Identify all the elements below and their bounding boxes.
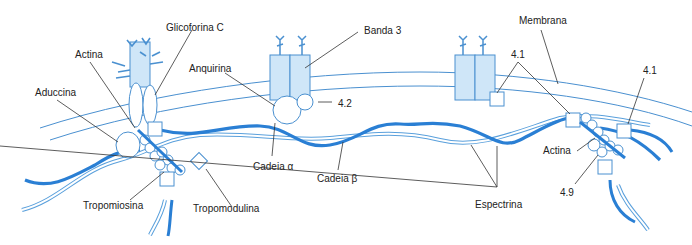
label-tropomiosina: Tropomiosina — [83, 200, 144, 211]
glicoforina-c-protein — [112, 38, 163, 127]
right-junctional-complex — [566, 113, 631, 174]
label-proteina-4-9: 4.9 — [560, 187, 574, 198]
label-proteina-4-1-middle: 4.1 — [511, 49, 525, 60]
label-banda3: Banda 3 — [364, 25, 402, 36]
spectrin-left-lower — [150, 200, 172, 236]
label-glicoforina-c: Glicoforina C — [166, 22, 224, 33]
spectrin-alpha-chain — [22, 116, 650, 210]
label-actina-right: Actina — [543, 145, 571, 156]
label-tropomodulina: Tropomodulina — [193, 203, 260, 214]
label-cadeia-alfa: Cadeia α — [253, 161, 293, 172]
label-proteina-4-1-right: 4.1 — [643, 65, 657, 76]
banda3-protein-left — [270, 36, 310, 100]
label-anquirina: Anquirina — [189, 63, 232, 74]
aduccina-protein — [116, 132, 140, 158]
label-aduccina: Aduccina — [35, 87, 77, 98]
label-proteina-4-2: 4.2 — [338, 98, 352, 109]
label-actina-left: Actina — [75, 49, 103, 60]
proteina-4-2 — [297, 94, 313, 110]
label-membrana: Membrana — [519, 15, 567, 26]
erythrocyte-membrane-diagram: Glicoforina C Actina Aduccina Anquirina … — [0, 0, 692, 245]
banda3-protein-right — [455, 36, 504, 106]
label-cadeia-beta: Cadeia β — [317, 173, 357, 184]
label-espectrina: Espectrina — [475, 199, 523, 210]
